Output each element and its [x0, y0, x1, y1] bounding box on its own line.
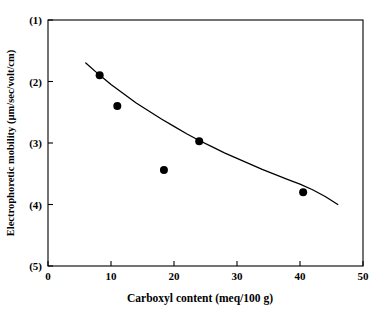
x-tick-label: 50: [358, 270, 370, 282]
y-axis-title: Electrophoretic mobility (µm/sec/volt/cm…: [5, 49, 17, 236]
x-tick-labels: 0 10 20 30 40 50: [45, 270, 369, 282]
x-tick-label: 30: [232, 270, 244, 282]
y-tick-label: (3): [29, 137, 42, 150]
data-point-marker: [96, 71, 104, 79]
data-point-marker: [299, 188, 307, 196]
chart-canvas: 0 10 20 30 40 50 (1) (2) (3) (4) (5) Car…: [0, 0, 390, 313]
x-tick-label: 10: [106, 270, 118, 282]
x-tick-label: 40: [295, 270, 307, 282]
y-tick-label: (5): [29, 260, 42, 273]
data-point-marker: [195, 137, 203, 145]
y-tick-labels: (1) (2) (3) (4) (5): [29, 14, 42, 273]
data-point-marker: [113, 102, 121, 110]
x-tick-label: 0: [45, 270, 51, 282]
y-tick-label: (1): [29, 14, 42, 27]
x-tick-label: 20: [169, 270, 181, 282]
x-axis-title: Carboxyl content (meq/100 g): [127, 292, 273, 305]
y-tick-label: (2): [29, 76, 42, 89]
data-point-marker: [160, 166, 168, 174]
y-tick-label: (4): [29, 199, 42, 212]
chart-figure: 0 10 20 30 40 50 (1) (2) (3) (4) (5) Car…: [0, 0, 390, 313]
